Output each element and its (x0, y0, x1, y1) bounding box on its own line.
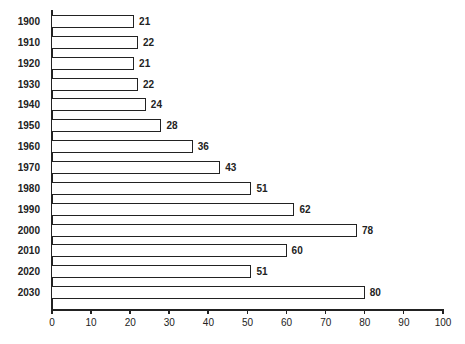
bar (52, 98, 146, 111)
value-label: 62 (299, 204, 310, 215)
bar-chart: 1900211910221920211930221940241950281960… (0, 0, 465, 344)
value-label: 24 (151, 99, 162, 110)
value-label: 36 (198, 141, 209, 152)
x-tick (90, 309, 92, 314)
x-tick (129, 309, 131, 314)
x-tick-label: 40 (193, 317, 223, 328)
category-label: 1950 (0, 120, 40, 131)
category-label: 1920 (0, 58, 40, 69)
category-label: 1960 (0, 141, 40, 152)
x-tick (364, 309, 366, 314)
value-label: 21 (139, 58, 150, 69)
bar (52, 161, 220, 174)
category-label: 1930 (0, 79, 40, 90)
bar (52, 36, 138, 49)
x-tick (207, 309, 209, 314)
x-tick (442, 309, 444, 314)
bar (52, 119, 161, 132)
x-tick-label: 60 (272, 317, 302, 328)
bar (52, 265, 251, 278)
x-tick-label: 20 (115, 317, 145, 328)
category-label: 2010 (0, 245, 40, 256)
bar (52, 78, 138, 91)
x-tick-label: 90 (389, 317, 419, 328)
category-label: 2020 (0, 266, 40, 277)
value-label: 22 (143, 79, 154, 90)
value-label: 78 (362, 225, 373, 236)
x-tick-label: 0 (37, 317, 67, 328)
x-tick (247, 309, 249, 314)
category-label: 2000 (0, 225, 40, 236)
category-label: 1990 (0, 204, 40, 215)
category-label: 1910 (0, 37, 40, 48)
value-label: 51 (256, 183, 267, 194)
value-label: 43 (225, 162, 236, 173)
bar (52, 244, 287, 257)
bar (52, 57, 134, 70)
category-label: 2030 (0, 287, 40, 298)
bar (52, 182, 251, 195)
value-label: 51 (256, 266, 267, 277)
category-label: 1970 (0, 162, 40, 173)
value-label: 80 (370, 287, 381, 298)
x-tick-label: 30 (154, 317, 184, 328)
value-label: 22 (143, 37, 154, 48)
x-tick (168, 309, 170, 314)
x-tick-label: 100 (428, 317, 458, 328)
bar (52, 140, 193, 153)
x-tick-label: 80 (350, 317, 380, 328)
bar (52, 203, 294, 216)
value-label: 60 (292, 245, 303, 256)
value-label: 21 (139, 16, 150, 27)
category-label: 1980 (0, 183, 40, 194)
category-label: 1900 (0, 16, 40, 27)
x-tick (403, 309, 405, 314)
x-tick (286, 309, 288, 314)
x-tick (325, 309, 327, 314)
bar (52, 15, 134, 28)
value-label: 28 (166, 120, 177, 131)
bar (52, 286, 365, 299)
bar (52, 224, 357, 237)
category-label: 1940 (0, 99, 40, 110)
x-tick (51, 309, 53, 314)
x-tick-label: 70 (311, 317, 341, 328)
x-tick-label: 10 (76, 317, 106, 328)
x-tick-label: 50 (233, 317, 263, 328)
